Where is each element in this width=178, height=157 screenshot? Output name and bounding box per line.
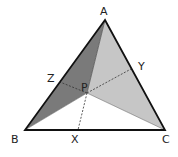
triangle-diagram: A B C P X Y Z <box>0 0 178 157</box>
label-Z: Z <box>47 72 55 85</box>
label-B: B <box>11 133 19 146</box>
label-A: A <box>100 5 108 18</box>
label-X: X <box>71 133 79 146</box>
label-Y: Y <box>137 60 145 73</box>
label-C: C <box>162 133 170 146</box>
label-P: P <box>81 81 88 94</box>
